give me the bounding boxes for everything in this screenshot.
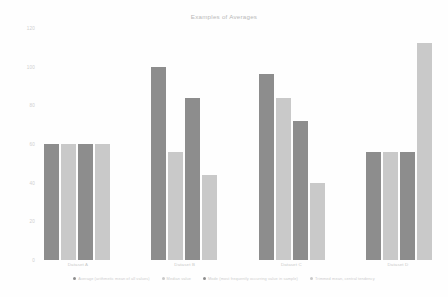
legend-swatch-icon bbox=[162, 277, 165, 280]
bar-group bbox=[259, 28, 325, 260]
chart-title: Examples of Averages bbox=[0, 13, 448, 20]
chart-legend: Average (arithmetic mean of all values)M… bbox=[0, 276, 448, 281]
y-axis-tick-label: 100 bbox=[27, 64, 35, 69]
legend-swatch-icon bbox=[310, 277, 313, 280]
bar[interactable] bbox=[44, 144, 59, 260]
x-axis-category-label: Dataset C bbox=[257, 262, 325, 270]
y-axis-tick-label: 80 bbox=[29, 103, 35, 108]
bar[interactable] bbox=[168, 152, 183, 260]
y-axis-tick-label: 120 bbox=[27, 26, 35, 31]
bar-group bbox=[151, 28, 217, 260]
bar[interactable] bbox=[259, 74, 274, 260]
bar-group bbox=[366, 28, 432, 260]
bar-groups bbox=[40, 28, 438, 260]
legend-item[interactable]: Mode (most frequently occurring value in… bbox=[203, 276, 298, 281]
y-axis-tick-label: 60 bbox=[29, 142, 35, 147]
bar[interactable] bbox=[383, 152, 398, 260]
legend-item-label: Average (arithmetic mean of all values) bbox=[78, 276, 149, 281]
legend-item[interactable]: Median value bbox=[162, 276, 191, 281]
bar[interactable] bbox=[293, 121, 308, 260]
x-axis-category-labels: Dataset ADataset BDataset CDataset D bbox=[40, 262, 438, 270]
bar-group bbox=[44, 28, 110, 260]
chart-container: Examples of Averages 120100806040200 Dat… bbox=[0, 0, 448, 297]
bar[interactable] bbox=[78, 144, 93, 260]
x-axis-category-label: Dataset A bbox=[44, 262, 112, 270]
bar[interactable] bbox=[185, 98, 200, 260]
legend-item-label: Median value bbox=[167, 276, 191, 281]
y-axis-tick-label: 40 bbox=[29, 180, 35, 185]
legend-item-label: Mode (most frequently occurring value in… bbox=[208, 276, 298, 281]
bar[interactable] bbox=[151, 67, 166, 260]
legend-item[interactable]: Average (arithmetic mean of all values) bbox=[73, 276, 149, 281]
bar[interactable] bbox=[310, 183, 325, 260]
plot-area: 120100806040200 bbox=[40, 28, 438, 260]
bar[interactable] bbox=[417, 43, 432, 260]
legend-swatch-icon bbox=[203, 277, 206, 280]
legend-item-label: Trimmed mean, central tendency bbox=[315, 276, 375, 281]
legend-item[interactable]: Trimmed mean, central tendency bbox=[310, 276, 375, 281]
bar[interactable] bbox=[276, 98, 291, 260]
y-axis-tick-label: 20 bbox=[29, 219, 35, 224]
y-axis-tick-label: 0 bbox=[32, 258, 35, 263]
bar[interactable] bbox=[61, 144, 76, 260]
x-axis-category-label: Dataset D bbox=[364, 262, 432, 270]
bar[interactable] bbox=[95, 144, 110, 260]
bar[interactable] bbox=[366, 152, 381, 260]
legend-swatch-icon bbox=[73, 277, 76, 280]
x-axis-category-label: Dataset B bbox=[151, 262, 219, 270]
bar[interactable] bbox=[202, 175, 217, 260]
bar[interactable] bbox=[400, 152, 415, 260]
